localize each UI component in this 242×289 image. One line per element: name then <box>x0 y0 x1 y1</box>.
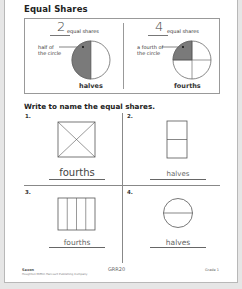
problem-3-number: 3. <box>25 189 31 195</box>
instruction-text: Write to name the equal shares. <box>24 102 155 111</box>
half-circle-figure <box>25 19 123 94</box>
worksheet-page: Equal Shares 2 equal shares half of the … <box>4 0 238 283</box>
page-title: Equal Shares <box>24 4 88 14</box>
problem-4-number: 4. <box>127 189 133 195</box>
circle-halves-figure <box>162 197 194 229</box>
rectangle-fourths-figure <box>57 197 97 232</box>
example-fourths-answer: fourths <box>174 82 201 90</box>
grid-vertical-divider <box>122 113 123 263</box>
problem-2-answer-line <box>150 179 206 180</box>
rectangle-halves-figure <box>166 120 188 160</box>
problem-1-number: 1. <box>25 113 31 119</box>
problem-4-answer[interactable]: halves <box>150 238 206 247</box>
fourth-circle-figure <box>123 19 221 94</box>
problem-1-answer[interactable]: fourths <box>49 167 105 178</box>
footer-copyright: Houghton Mifflin Harcourt Publishing Com… <box>22 272 88 276</box>
problem-3-answer[interactable]: fourths <box>49 238 105 247</box>
problem-1-answer-line <box>49 179 105 180</box>
example-halves-answer: halves <box>79 82 103 90</box>
square-fourths-figure <box>57 121 97 159</box>
problem-4-answer-line <box>150 247 206 248</box>
problem-3-answer-line <box>49 247 105 248</box>
grid-horizontal-divider <box>24 185 220 186</box>
example-box: 2 equal shares half of the circle halves… <box>24 18 220 94</box>
problem-2-answer[interactable]: halves <box>150 170 206 178</box>
footer-grade: Grade 1 <box>205 268 219 272</box>
footer-code: GRR20 <box>108 266 125 272</box>
problem-2-number: 2. <box>127 113 133 119</box>
